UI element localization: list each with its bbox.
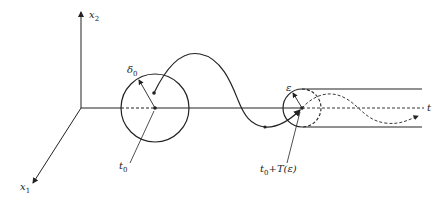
initial-center-dot: [153, 106, 157, 110]
t0-plus-T-label: t0+T(ε): [260, 164, 297, 177]
delta0-label: δ0: [127, 65, 138, 78]
x2-axis-label: x2: [89, 10, 99, 23]
t0-leader-line: [130, 111, 154, 163]
trajectory-continuation-dashed: [302, 94, 418, 124]
x2-label-sub: 2: [95, 15, 99, 23]
trajectory-curve: [154, 53, 300, 127]
x1-axis-label: x1: [20, 182, 30, 195]
delta0-sub: 0: [133, 70, 137, 78]
t0-sub: 0: [123, 166, 127, 174]
t0-label: t0: [119, 161, 128, 174]
t0T-rest: +T(ε): [269, 163, 297, 174]
t-label-text: t: [427, 102, 431, 113]
epsilon-label: ε: [286, 83, 291, 93]
epsilon-radius-arrow: [293, 93, 302, 108]
diagram-canvas: x2 x1 t δ0 t0 ε t0+T(ε): [0, 0, 445, 198]
x1-label-sub: 1: [26, 187, 30, 195]
t-axis-label: t: [427, 103, 431, 113]
epsilon-text: ε: [286, 82, 291, 93]
trajectory-mid-dot: [263, 125, 266, 128]
diagram-svg: [0, 0, 445, 198]
x1-axis: [33, 108, 81, 183]
